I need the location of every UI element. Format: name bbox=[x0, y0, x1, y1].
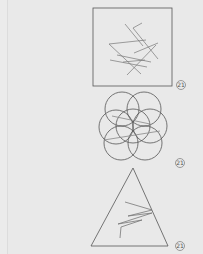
figure-label-square: 21 bbox=[176, 80, 186, 90]
figure-label-circles: 21 bbox=[175, 158, 185, 168]
figure-label-triangle: 21 bbox=[175, 241, 185, 251]
figures-canvas bbox=[0, 0, 203, 254]
triangle-figure bbox=[91, 168, 168, 246]
square-figure bbox=[93, 8, 172, 86]
circles-figure bbox=[99, 92, 167, 160]
